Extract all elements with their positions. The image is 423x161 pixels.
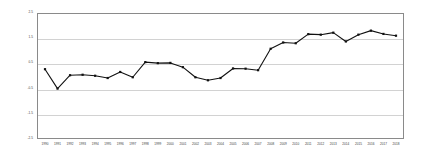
x-axis-tick-label: 2006 <box>242 142 249 146</box>
data-point-marker <box>370 30 372 32</box>
data-point-marker <box>219 77 221 79</box>
data-point-marker <box>295 42 297 44</box>
y-axis-tick-label: 1.5 <box>29 37 33 40</box>
data-point-marker <box>270 48 272 50</box>
data-point-marker <box>320 34 322 36</box>
data-point-marker <box>244 68 246 70</box>
x-axis-tick-label: 1998 <box>142 142 149 146</box>
x-axis-tick-label: 1999 <box>154 142 161 146</box>
data-point-marker <box>395 35 397 37</box>
x-axis-tick-label: 1994 <box>92 142 99 146</box>
series-line <box>45 31 396 89</box>
data-point-marker <box>69 74 71 76</box>
data-point-marker <box>257 69 259 71</box>
x-axis-tick-label: 1992 <box>67 142 74 146</box>
x-axis-tick-label: 1991 <box>54 142 61 146</box>
x-axis-tick-label: 2000 <box>167 142 174 146</box>
data-point-marker <box>182 66 184 68</box>
data-point-marker <box>307 33 309 35</box>
data-point-marker <box>157 62 159 64</box>
data-point-marker <box>382 33 384 35</box>
x-axis-tick-label: 2015 <box>355 142 362 146</box>
chart-container: 2.51.50.5-0.5-1.5-2.5 199019911992199319… <box>0 0 423 161</box>
x-axis-tick-label: 2009 <box>280 142 287 146</box>
x-axis-tick-label: 2003 <box>204 142 211 146</box>
x-axis-tick-label: 2004 <box>217 142 224 146</box>
x-axis-tick-label: 1995 <box>104 142 111 146</box>
data-point-marker <box>357 34 359 36</box>
x-axis-tick-label: 2016 <box>367 142 374 146</box>
y-axis-tick-label: -1.5 <box>27 112 33 115</box>
x-axis-tick-label: 2007 <box>255 142 262 146</box>
x-axis-tick-label: 1993 <box>79 142 86 146</box>
data-series-layer <box>37 13 404 139</box>
data-point-marker <box>332 32 334 34</box>
data-point-marker <box>232 67 234 69</box>
data-point-marker <box>44 68 46 70</box>
x-axis-tick-label: 1997 <box>129 142 136 146</box>
x-axis-tick-labels: 1990199119921993199419951996199719981999… <box>37 142 404 152</box>
data-point-marker <box>119 71 121 73</box>
data-point-marker <box>207 79 209 81</box>
y-axis-tick-label: 2.5 <box>29 11 33 14</box>
x-axis-tick-label: 2005 <box>230 142 237 146</box>
x-axis-tick-label: 1996 <box>117 142 124 146</box>
data-point-marker <box>345 40 347 42</box>
data-point-marker <box>94 75 96 77</box>
x-axis-tick-label: 2011 <box>305 142 312 146</box>
data-point-marker <box>194 76 196 78</box>
y-axis-tick-label: -0.5 <box>27 87 33 90</box>
x-axis-tick-label: 1990 <box>42 142 49 146</box>
x-axis-tick-label: 2008 <box>267 142 274 146</box>
data-point-marker <box>282 41 284 43</box>
data-point-marker <box>107 77 109 79</box>
data-point-marker <box>56 88 58 90</box>
data-point-marker <box>132 76 134 78</box>
y-axis-tick-label: -2.5 <box>27 137 33 140</box>
y-axis-tick-label: 0.5 <box>29 62 33 65</box>
x-axis-tick-label: 2017 <box>380 142 387 146</box>
y-axis-tick-labels: 2.51.50.5-0.5-1.5-2.5 <box>0 13 34 139</box>
data-point-marker <box>82 74 84 76</box>
x-axis-tick-label: 2014 <box>342 142 349 146</box>
x-axis-tick-label: 2001 <box>179 142 186 146</box>
x-axis-tick-label: 2018 <box>393 142 400 146</box>
series-markers <box>44 30 397 90</box>
x-axis-tick-label: 2002 <box>192 142 199 146</box>
x-axis-tick-label: 2012 <box>317 142 324 146</box>
data-point-marker <box>144 61 146 63</box>
x-axis-tick-label: 2010 <box>292 142 299 146</box>
x-axis-tick-label: 2013 <box>330 142 337 146</box>
data-point-marker <box>169 62 171 64</box>
